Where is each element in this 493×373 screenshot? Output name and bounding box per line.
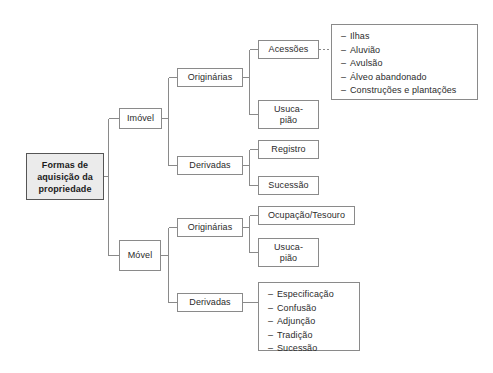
leaf-node-registro: Registro (258, 140, 319, 159)
category-node-originarias-movel: Originárias (177, 218, 243, 237)
list-dash-icon: – (268, 329, 277, 343)
list-item-label: Construções e plantações (350, 85, 456, 95)
branch-node-movel: Móvel (119, 240, 161, 271)
list-dash-icon: – (268, 288, 277, 302)
leaf-label-usucapiao-movel-line1: Usuca- (274, 242, 303, 253)
leaf-label-ocupacao-tesouro: Ocupação/Tesouro (268, 210, 345, 221)
list-dash-icon: – (268, 315, 277, 329)
leaf-label-registro: Registro (271, 144, 305, 155)
category-label-derivadas-movel: Derivadas (189, 297, 230, 308)
list-dash-icon: – (341, 71, 350, 85)
leaf-node-acessoes: Acessões (258, 40, 319, 59)
leaf-label-usucapiao-imovel-line2: pião (274, 115, 303, 126)
list-dash-icon: – (268, 342, 277, 356)
leaf-label-usucapiao-movel-line2: pião (274, 253, 303, 264)
category-node-originarias-imovel: Originárias (177, 68, 243, 87)
leaf-label-usucapiao-imovel-line1: Usuca- (274, 104, 303, 115)
list-dash-icon: – (341, 57, 350, 71)
root-node-formas-de-aquisicao: Formas de aquisição da propriedade (26, 153, 104, 200)
branch-label-movel: Móvel (128, 250, 153, 261)
branch-node-imovel: Imóvel (119, 108, 162, 129)
list-item-label: Aluvião (350, 45, 380, 55)
list-item: –Ilhas (341, 30, 469, 44)
list-item-label: Adjunção (277, 316, 315, 326)
list-item-label: Álveo abandonado (350, 72, 427, 82)
list-item-label: Avulsão (350, 58, 383, 68)
category-label-derivadas-imovel: Derivadas (189, 160, 230, 171)
listbox-acessoes-items: –Ilhas –Aluvião –Avulsão –Álveo abandona… (331, 24, 478, 100)
branch-label-imovel: Imóvel (127, 113, 154, 124)
list-dash-icon: – (268, 302, 277, 316)
list-item: –Sucessão (268, 342, 351, 356)
root-line-3: propriedade (37, 183, 93, 195)
list-item: –Aluvião (341, 44, 469, 58)
leaf-node-usucapiao-imovel: Usuca- pião (258, 100, 319, 129)
leaf-node-usucapiao-movel: Usuca- pião (258, 238, 319, 267)
list-item-label: Tradição (277, 330, 312, 340)
category-node-derivadas-movel: Derivadas (177, 293, 243, 312)
root-line-2: aquisição da (37, 171, 93, 183)
list-item-label: Confusão (277, 303, 316, 313)
list-item: –Avulsão (341, 57, 469, 71)
list-item-label: Sucessão (277, 343, 317, 353)
list-item: –Álveo abandonado (341, 71, 469, 85)
list-dash-icon: – (341, 44, 350, 58)
category-label-originarias-movel: Originárias (188, 222, 233, 233)
list-item: –Confusão (268, 302, 351, 316)
leaf-label-acessoes: Acessões (269, 44, 309, 55)
category-node-derivadas-imovel: Derivadas (177, 156, 243, 175)
list-item: –Adjunção (268, 315, 351, 329)
list-item: –Construções e plantações (341, 84, 469, 98)
category-label-originarias-imovel: Originárias (188, 72, 233, 83)
listbox-derivadas-movel-items: –Especificação –Confusão –Adjunção –Trad… (258, 282, 360, 351)
list-item-label: Especificação (277, 289, 334, 299)
list-item-label: Ilhas (350, 31, 370, 41)
list-dash-icon: – (341, 84, 350, 98)
list-item: –Especificação (268, 288, 351, 302)
acquisition-of-property-diagram: Formas de aquisição da propriedade Imóve… (0, 0, 493, 373)
leaf-label-sucessao-imovel: Sucessão (268, 180, 308, 191)
list-item: –Tradição (268, 329, 351, 343)
list-dash-icon: – (341, 30, 350, 44)
leaf-node-sucessao-imovel: Sucessão (258, 176, 319, 195)
root-line-1: Formas de (37, 159, 93, 171)
leaf-node-ocupacao-tesouro: Ocupação/Tesouro (258, 206, 355, 225)
